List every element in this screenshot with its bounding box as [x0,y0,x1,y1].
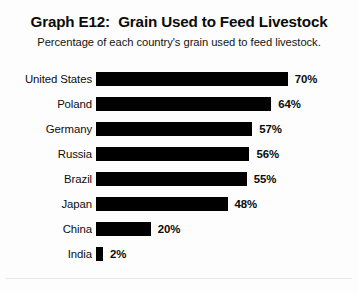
bar-track: 57% [96,122,358,136]
bar-category-label: Russia [0,148,92,160]
bar-track: 55% [96,172,358,186]
bar-category-label: Japan [0,198,92,210]
chart-title: Graph E12: Grain Used to Feed Livestock [0,0,358,30]
bar-value-label: 56% [256,148,279,160]
bar-category-label: United States [0,73,92,85]
bar-value-label: 64% [278,98,301,110]
bar-track: 70% [96,72,358,86]
bar-category-label: Germany [0,123,92,135]
bar-row: India2% [0,241,358,266]
bar-value-label: 57% [259,123,282,135]
bar-value-label: 2% [110,248,126,260]
bar-track: 2% [96,247,358,261]
bar [96,72,288,86]
bar-category-label: Poland [0,98,92,110]
bar [96,247,103,261]
bar-chart-plot-area: United States70%Poland64%Germany57%Russi… [0,66,358,266]
bar-track: 48% [96,197,358,211]
bar [96,172,247,186]
bar-category-label: China [0,223,92,235]
bar-value-label: 20% [158,223,181,235]
bar-row: China20% [0,216,358,241]
bar-row: Poland64% [0,91,358,116]
bar-row: Germany57% [0,116,358,141]
bar-row: Brazil55% [0,166,358,191]
bar-track: 64% [96,97,358,111]
bar [96,97,271,111]
bar [96,197,228,211]
chart-subtitle: Percentage of each country's grain used … [0,30,358,49]
bar-row: Japan48% [0,191,358,216]
chart-header: Graph E12: Grain Used to Feed Livestock … [0,0,358,49]
bar-row: United States70% [0,66,358,91]
bar-track: 20% [96,222,358,236]
bar-row: Russia56% [0,141,358,166]
bar [96,222,151,236]
bar-category-label: Brazil [0,173,92,185]
bar-value-label: 48% [235,198,258,210]
bar-value-label: 70% [295,73,318,85]
bar-track: 56% [96,147,358,161]
bar [96,122,252,136]
bar-value-label: 55% [254,173,277,185]
bar-category-label: India [0,248,92,260]
bar [96,147,249,161]
chart-container: Graph E12: Grain Used to Feed Livestock … [0,0,358,293]
